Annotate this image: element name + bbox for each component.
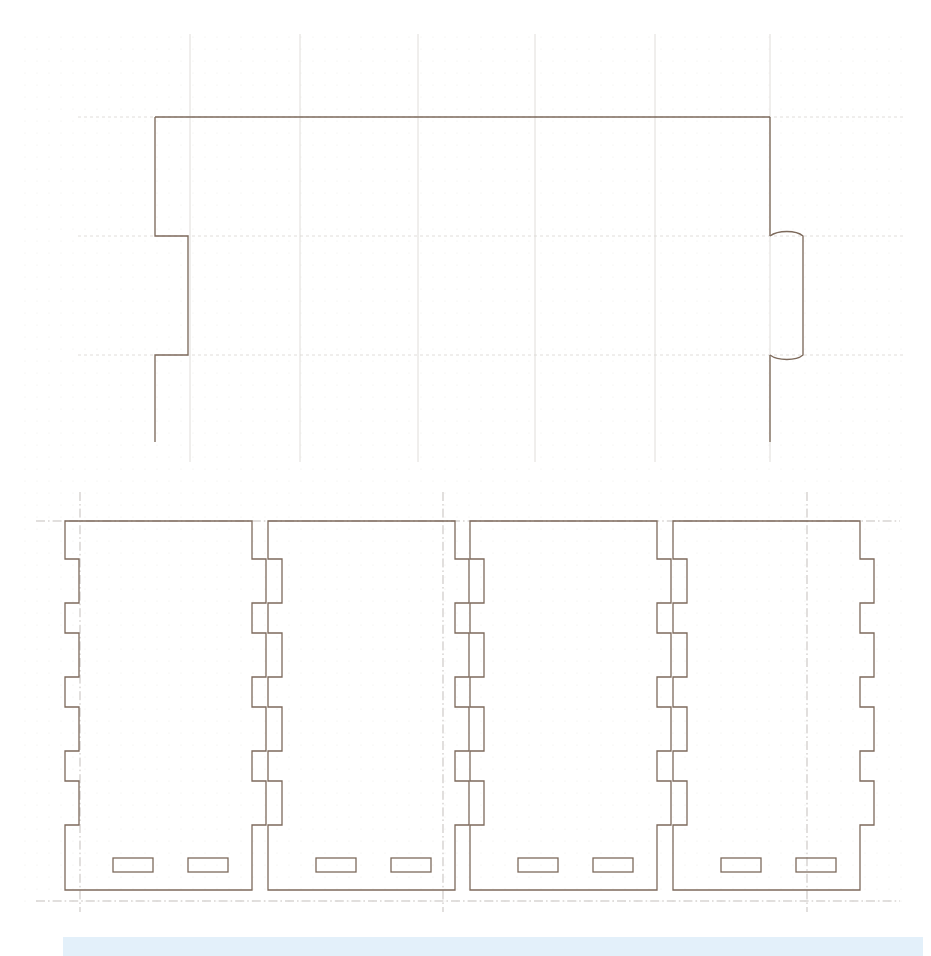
cad-drawing-svg [0,0,931,956]
bottom-color-band [63,937,923,956]
dot-grid-background [20,28,911,908]
drawing-canvas [0,0,931,956]
